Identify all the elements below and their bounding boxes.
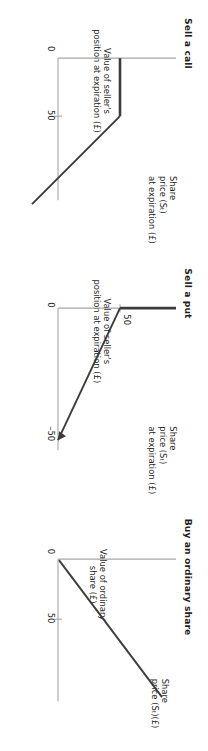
panel-row: Sell a call Value of seller's position a… (0, 0, 208, 751)
payoff-sloped-segment-sell-a-call (32, 116, 120, 204)
payoff-sloped-segment-sell-a-put (58, 308, 120, 440)
plot-buy-an-ordinary-share (0, 501, 208, 751)
panel-sell-a-put: Sell a put Value of seller's position at… (0, 250, 208, 500)
payoff-diagram-figure: Sell a call Value of seller's position a… (0, 0, 208, 751)
panel-sell-a-call: Sell a call Value of seller's position a… (0, 0, 208, 250)
plot-sell-a-put (0, 250, 208, 500)
share-value-line (59, 560, 162, 697)
plot-sell-a-call (0, 0, 208, 250)
panel-buy-an-ordinary-share: Buy an ordinary share Value of ordinary … (0, 501, 208, 751)
